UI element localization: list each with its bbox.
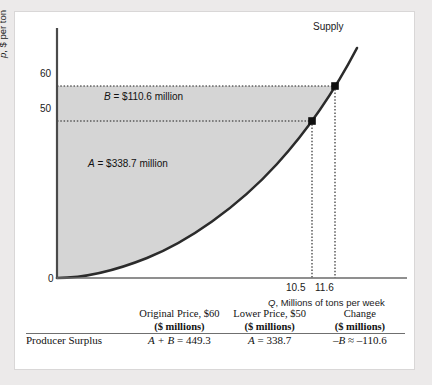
table-header-row: Original Price, $60 ($ millions) Lower P…	[26, 307, 405, 334]
cell-original-price: A + B = 449.3	[134, 334, 224, 346]
column-header-change: Change ($ millions)	[315, 307, 405, 334]
region-a-label: A = $338.7 million	[88, 158, 168, 169]
column-header-original-price: Original Price, $60 ($ millions)	[134, 307, 224, 334]
column-header-title: Original Price, $60	[134, 307, 224, 320]
y-tick-label-50: 50	[40, 103, 51, 114]
supply-curve-label: Supply	[313, 21, 344, 32]
figure-card: p, $ per ton Q, Millions of tons per wee…	[14, 11, 415, 370]
chart-plot-area: p, $ per ton Q, Millions of tons per wee…	[15, 12, 416, 302]
shaded-regions	[57, 86, 347, 278]
table-row: Producer Surplus A + B = 449.3 A = 338.7…	[26, 334, 405, 346]
column-header-title: Change	[315, 307, 405, 320]
y-axis-title: p, $ per ton	[0, 10, 8, 58]
supply-curve-svg	[15, 12, 416, 302]
cell-change: –B ≈ –110.6	[315, 334, 405, 346]
header-spacer-cell	[26, 307, 134, 334]
row-header-producer-surplus: Producer Surplus	[26, 334, 134, 346]
cell-lower-price: A = 338.7	[225, 334, 315, 346]
column-header-title: Lower Price, $50	[225, 307, 315, 320]
column-header-lower-price: Lower Price, $50 ($ millions)	[225, 307, 315, 334]
region-A-and-B-fill	[57, 86, 347, 278]
x-tick-label-10-5: 10.5	[286, 282, 305, 293]
region-b-label: B = $110.6 million	[104, 91, 183, 102]
producer-surplus-table: Original Price, $60 ($ millions) Lower P…	[26, 307, 405, 346]
origin-label: 0	[48, 273, 54, 284]
x-tick-label-11-6: 11.6	[315, 282, 334, 293]
point-marker-original-price	[331, 82, 339, 90]
point-marker-lower-price	[308, 117, 316, 125]
y-tick-label-60: 60	[40, 68, 51, 79]
column-header-subtitle: ($ millions)	[315, 320, 405, 333]
column-header-subtitle: ($ millions)	[225, 320, 315, 333]
column-header-subtitle: ($ millions)	[134, 320, 224, 333]
